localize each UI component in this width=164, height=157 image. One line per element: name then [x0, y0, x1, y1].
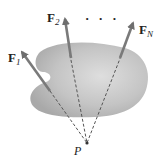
- ellipsis: · · ·: [85, 11, 120, 26]
- point-p-label: P: [73, 144, 82, 157]
- concurrent-forces-diagram: P F1 F2 FN · · ·: [0, 0, 164, 157]
- force-label-f1: F1: [8, 50, 20, 67]
- rigid-body: [30, 42, 148, 117]
- point-p: [85, 141, 88, 144]
- force-label-fn: FN: [139, 22, 154, 39]
- force-label-f2: F2: [47, 10, 60, 27]
